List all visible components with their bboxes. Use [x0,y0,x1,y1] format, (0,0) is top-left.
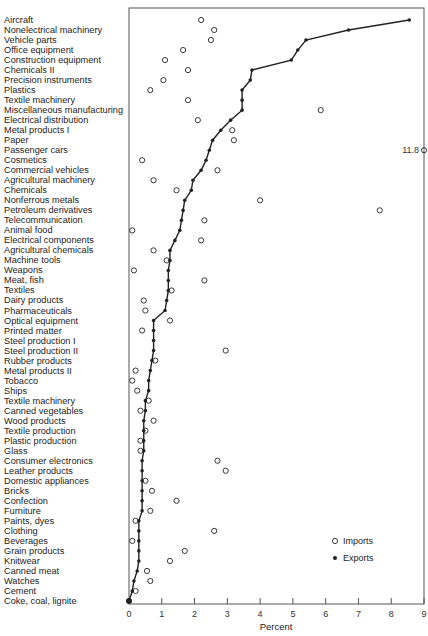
import-point [149,488,154,493]
export-point [135,569,139,573]
export-point [204,158,208,162]
x-tick-label: 9 [421,609,426,619]
import-point [153,358,158,363]
export-point [147,389,151,393]
import-point [140,158,145,163]
import-point [146,398,151,403]
export-point [137,549,141,553]
import-point [230,128,235,133]
export-point [240,108,244,112]
export-point [152,329,156,333]
import-point [377,208,382,213]
import-point [180,47,185,52]
export-point [183,199,187,203]
import-point [212,27,217,32]
import-point [138,408,143,413]
import-point [167,558,172,563]
export-point [137,529,141,533]
import-point [130,378,135,383]
import-point [185,98,190,103]
import-point [167,318,172,323]
import-point [143,478,148,483]
export-point [147,379,151,383]
imports-markers [126,17,426,603]
exports-legend-label: Exports [343,553,374,563]
x-tick-label: 2 [192,609,197,619]
x-tick-label: 3 [225,609,230,619]
import-point [130,538,135,543]
imports-legend-marker-icon [332,538,337,543]
export-point [140,459,144,463]
export-point [165,299,169,303]
x-tick-label: 1 [159,609,164,619]
export-point [407,18,411,22]
import-point [258,198,263,203]
import-point [215,168,220,173]
import-point [151,178,156,183]
chart-plot: 0123456789 Percent 11.8 Imports Exports [0,0,428,636]
imports-legend-label: Imports [343,536,374,546]
x-tick-label: 0 [126,609,131,619]
x-axis-title: Percent [260,621,293,632]
import-point [133,588,138,593]
export-point [132,579,136,583]
import-point [138,448,143,453]
export-point [142,419,146,423]
import-point [130,228,135,233]
import-point [151,248,156,253]
import-point [174,498,179,503]
exports-legend-marker-icon [333,556,337,560]
import-point [133,518,138,523]
import-point [148,578,153,583]
x-tick-label: 8 [389,609,394,619]
import-point [212,528,217,533]
export-point [289,58,293,62]
legend: Imports Exports [332,536,374,563]
export-point [152,349,156,353]
export-point [152,319,156,323]
export-point [140,469,144,473]
export-point [211,138,215,142]
import-point [195,118,200,123]
export-point [240,98,244,102]
export-point [140,509,144,513]
export-point [149,369,153,373]
export-point [191,178,195,182]
export-point [137,559,141,563]
import-point [162,57,167,62]
import-point [174,188,179,193]
import-point [131,268,136,273]
x-tick-label: 5 [290,609,295,619]
export-point [296,48,300,52]
import-point [202,278,207,283]
export-point [229,118,233,122]
export-point [347,28,351,32]
x-tick-label: 4 [258,609,263,619]
import-point [138,438,143,443]
export-point [144,409,148,413]
export-point [173,239,177,243]
import-point [231,138,236,143]
export-point [168,249,172,253]
import-point [421,148,426,153]
import-point [223,348,228,353]
export-point [250,68,254,72]
import-point [126,598,131,603]
export-point [189,188,193,192]
plot-frame [129,8,424,604]
x-tick-label: 7 [356,609,361,619]
import-point [141,298,146,303]
import-point [199,238,204,243]
import-point [148,508,153,513]
import-point [135,388,140,393]
import-point [185,67,190,72]
export-point [167,269,171,273]
import-point [199,17,204,22]
export-point [180,219,184,223]
export-point [199,168,203,172]
export-point [152,339,156,343]
import-point [133,368,138,373]
import-point [223,468,228,473]
exports-markers [126,18,411,604]
import-point [215,458,220,463]
